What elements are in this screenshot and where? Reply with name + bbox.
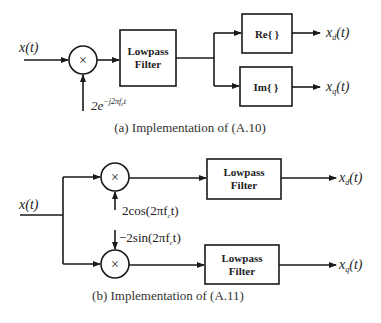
caption-b: (b) Implementation of (A.11) [92,288,244,303]
diagram-b: x(t) × × 2cos(2πfct) −2sin(2πfct) Lowpas… [18,159,363,303]
block-diagram: x(t) × 2e−j2πfct Lowpass Filter Re{ } Im… [0,0,381,323]
carrier-label-a: 2e−j2πfct [91,97,127,113]
input-label-a: x(t) [18,40,39,56]
output-xd-label-b: xd(t) [338,170,363,187]
multiply-icon-a: × [79,53,87,68]
output-xq-label-a: xq(t) [325,79,350,96]
multiply-icon-lower-b: × [111,257,119,272]
filter-label-line2-a: Filter [135,58,161,70]
multiply-icon-upper-b: × [111,170,119,185]
re-block-label: Re{ } [255,28,279,40]
filter-label-line2-upper-b: Filter [231,179,257,191]
caption-a: (a) Implementation of (A.10) [114,120,266,135]
filter-label-line1-upper-b: Lowpass [224,166,266,178]
diagram-a: x(t) × 2e−j2πfct Lowpass Filter Re{ } Im… [18,14,350,135]
output-xd-label-a: xd(t) [325,25,350,42]
cos-carrier-label: 2cos(2πfct) [122,203,179,220]
sin-carrier-label: −2sin(2πfct) [119,230,181,247]
input-label-b: x(t) [18,197,39,213]
filter-label-line1-lower-b: Lowpass [222,252,264,264]
filter-label-line2-lower-b: Filter [229,265,255,277]
filter-label-line1-a: Lowpass [128,45,170,57]
output-xq-label-b: xq(t) [338,257,363,274]
im-block-label: Im{ } [254,81,279,93]
